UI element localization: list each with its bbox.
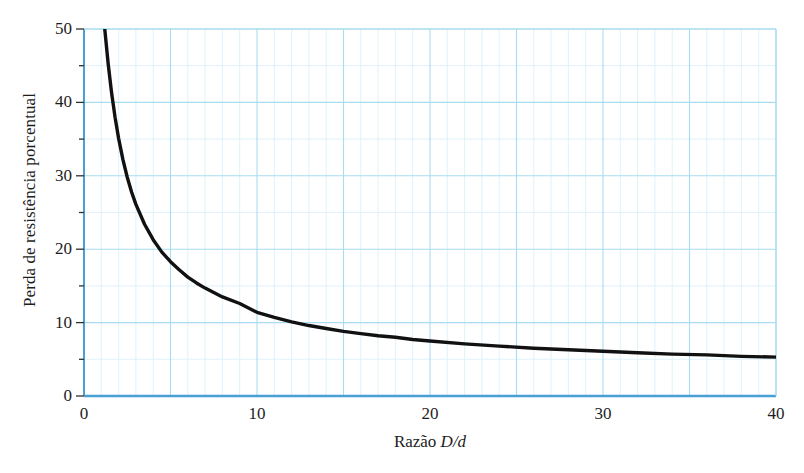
x-axis-title-symbol: D/d	[441, 432, 467, 451]
y-axis-title: Perda de resistência porcentual	[20, 20, 40, 380]
x-tick-label: 10	[232, 405, 282, 422]
y-tick-label: 0	[32, 387, 72, 404]
x-tick-label: 40	[751, 405, 801, 422]
x-tick-label: 0	[59, 405, 109, 422]
x-axis-title: Razão D/d	[84, 432, 776, 452]
plot-canvas	[0, 0, 804, 473]
axis-ticks	[76, 29, 84, 396]
x-tick-label: 20	[405, 405, 455, 422]
chart-figure: 01020304050 010203040 Perda de resistênc…	[0, 0, 804, 473]
x-axis-title-prefix: Razão	[394, 432, 441, 451]
x-tick-label: 30	[578, 405, 628, 422]
